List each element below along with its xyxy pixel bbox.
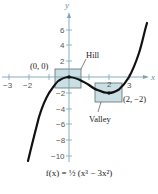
y-tick-label: 4 xyxy=(60,41,65,50)
x-tick-label: −2 xyxy=(23,81,33,90)
hill-leader-line xyxy=(81,59,86,69)
y-axis-name: y xyxy=(64,0,69,10)
y-axis-arrow-icon xyxy=(67,12,71,18)
x-tick-label: −3 xyxy=(3,81,13,90)
min-point xyxy=(107,91,111,95)
function-curve xyxy=(28,23,147,161)
x-axis-arrow-icon xyxy=(143,75,149,79)
y-tick-label: 2 xyxy=(60,57,65,66)
y-tick-label: −2 xyxy=(56,89,66,98)
x-tick-label: 3 xyxy=(127,81,132,90)
function-graph: x −3 −2 2 3 y 6 4 2 −2 −4 −6 −8 −10 (0, … xyxy=(0,0,158,194)
y-tick-label: −8 xyxy=(56,136,66,145)
valley-label: Valley xyxy=(89,114,111,124)
y-tick-label: −10 xyxy=(51,152,65,161)
x-axis-name: x xyxy=(150,72,155,82)
y-tick-label: 6 xyxy=(60,26,65,35)
valley-leader-line xyxy=(98,102,101,112)
x-tick-label: 2 xyxy=(107,80,112,89)
max-point xyxy=(67,75,71,79)
y-tick-label: −6 xyxy=(56,120,66,129)
min-point-label: (2, −2) xyxy=(123,94,146,104)
hill-label: Hill xyxy=(86,50,100,60)
max-point-label: (0, 0) xyxy=(30,61,49,71)
formula-text: f(x) = ½ (x³ − 3x²) xyxy=(46,168,113,178)
y-tick-label: −4 xyxy=(56,105,66,114)
function-formula: f(x) = ½ (x³ − 3x²) xyxy=(0,168,158,178)
